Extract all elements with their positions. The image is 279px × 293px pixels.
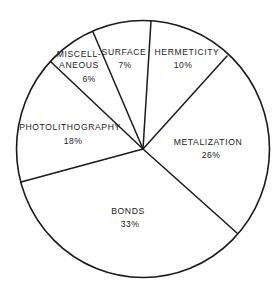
slice-pct-bonds: 33% xyxy=(121,219,139,229)
slice-pct-metalization: 26% xyxy=(202,150,220,160)
slice-pct-hermeticity: 10% xyxy=(174,60,192,70)
slice-label-miscellaneous-line2: ANEOUS xyxy=(59,60,99,70)
slice-pct-photolithography: 18% xyxy=(64,136,82,146)
slice-label-surface: SURFACE xyxy=(102,47,147,57)
slice-pct-surface: 7% xyxy=(118,60,131,70)
slice-label-metalization: METALIZATION xyxy=(174,137,242,147)
slice-label-hermeticity: HERMETICITY xyxy=(155,47,220,57)
slice-label-miscellaneous-line1: MISCELL- xyxy=(57,49,101,59)
pie-chart: SURFACE 7% HERMETICITY 10% METALIZATION … xyxy=(0,0,279,293)
slice-label-photolithography: PHOTOLITHOGRAPHY xyxy=(19,122,121,132)
slice-pct-miscellaneous: 6% xyxy=(82,74,95,84)
slice-label-bonds: BONDS xyxy=(111,206,145,216)
